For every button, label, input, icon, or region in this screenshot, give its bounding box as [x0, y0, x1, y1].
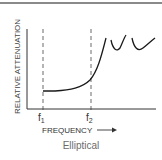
attenuation-curve	[43, 38, 106, 91]
f2-label: f2	[86, 112, 93, 124]
chart-caption: Elliptical	[0, 140, 162, 151]
x-axis-label: FREQUENCY	[42, 126, 93, 135]
stopband-ripple-2	[132, 38, 155, 50]
stopband-ripple-1	[111, 35, 126, 50]
arrow-head-icon	[112, 128, 117, 133]
attenuation-chart: RELATIVE ATTENUATION f1 f2 FREQUENCY	[0, 0, 162, 160]
y-axis-label: RELATIVE ATTENUATION	[13, 19, 22, 114]
f1-label: f1	[38, 112, 45, 124]
